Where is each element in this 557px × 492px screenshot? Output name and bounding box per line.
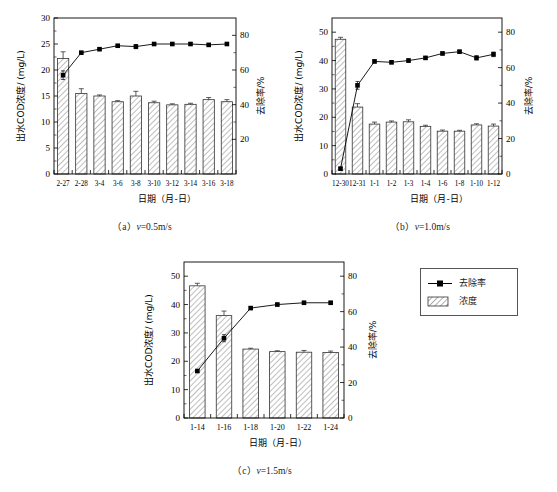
- svg-text:15: 15: [41, 91, 51, 101]
- marker-3-18: [225, 42, 230, 47]
- panel-a-caption-prefix: （a）: [112, 222, 136, 232]
- panel-b-plot: 0102030405002040608012-3012-311-11-21-31…: [286, 6, 554, 221]
- bar-3-4: [94, 96, 105, 174]
- x-tick-label: 2-27: [57, 180, 71, 188]
- marker-3-10: [152, 42, 157, 47]
- bar-1-22: [296, 352, 311, 418]
- marker-3-8: [134, 44, 139, 49]
- marker-1-3: [406, 58, 411, 63]
- svg-text:20: 20: [319, 112, 329, 122]
- svg-text:0: 0: [348, 413, 353, 423]
- y-axis-left: 01020304050: [171, 271, 188, 423]
- marker-1-1: [372, 59, 377, 64]
- svg-text:40: 40: [171, 300, 181, 310]
- marker-1-6: [440, 51, 445, 56]
- line-series: [61, 42, 229, 80]
- x-tick-label: 3-16: [202, 180, 216, 188]
- y-axis-right-title: 去除率/%: [255, 76, 266, 115]
- marker-3-16: [206, 43, 211, 48]
- svg-text:80: 80: [506, 27, 516, 37]
- x-tick-label: 1-16: [217, 423, 232, 432]
- x-tick-label: 12-31: [349, 180, 366, 188]
- y-axis-left-title: 出水COD浓度/ (mg/L): [293, 50, 304, 142]
- x-tick-label: 3-18: [220, 180, 234, 188]
- y-axis-right: 020406080: [340, 271, 358, 423]
- x-tick-label: 3-6: [113, 180, 123, 188]
- x-tick-label: 1-6: [438, 180, 448, 188]
- marker-1-10: [474, 56, 479, 61]
- marker-3-12: [170, 42, 175, 47]
- x-axis: 1-141-161-181-201-221-24: [184, 414, 344, 432]
- svg-text:40: 40: [240, 100, 250, 110]
- legend-label-removal-rate: 去除率: [459, 279, 486, 288]
- chart-panel-c: 010203040500204060801-141-161-181-201-22…: [128, 250, 396, 490]
- y-axis-right-title: 去除率/%: [523, 76, 534, 115]
- x-tick-label: 1-14: [190, 423, 205, 432]
- x-tick-label: 1-4: [421, 180, 431, 188]
- y-axis-left: 01020304050: [319, 27, 336, 179]
- marker-1-16: [222, 336, 227, 341]
- marker-1-2: [389, 60, 394, 65]
- marker-3-4: [97, 47, 102, 52]
- marker-1-24: [328, 300, 333, 305]
- bar-3-16: [203, 100, 214, 174]
- bar-1-24: [323, 352, 338, 418]
- bar-3-8: [130, 96, 141, 174]
- x-tick-label: 1-2: [387, 180, 397, 188]
- svg-text:0: 0: [506, 169, 511, 179]
- svg-text:80: 80: [348, 271, 358, 281]
- y-axis-right-title: 去除率/%: [367, 320, 378, 359]
- line-series: [195, 300, 333, 373]
- svg-text:40: 40: [319, 56, 329, 66]
- bar-series: [190, 283, 339, 418]
- panel-c-plot: 010203040500204060801-141-161-181-201-22…: [128, 250, 396, 465]
- panel-a-caption: （a）v=0.5m/s: [8, 219, 276, 233]
- bar-12-31: [352, 107, 363, 174]
- bar-3-12: [167, 105, 178, 174]
- svg-text:25: 25: [41, 39, 51, 49]
- marker-1-8: [457, 49, 462, 54]
- x-tick-label: 3-4: [95, 180, 105, 188]
- panel-b-caption-value: =1.0m/s: [419, 222, 450, 232]
- marker-1-20: [275, 302, 280, 307]
- x-tick-label: 2-28: [75, 180, 89, 188]
- svg-text:20: 20: [506, 134, 516, 144]
- panel-b-caption-prefix: （b）: [390, 222, 415, 232]
- panel-a-caption-value: =0.5m/s: [141, 222, 172, 232]
- bar-1-3: [403, 122, 414, 174]
- chart-panel-a: 051015202530204060802-272-283-43-63-83-1…: [8, 6, 276, 246]
- svg-text:20: 20: [171, 356, 181, 366]
- x-tick-label: 1-12: [487, 180, 501, 188]
- bar-1-1: [369, 124, 380, 174]
- bar-12-30: [335, 39, 346, 174]
- x-tick-label: 1-8: [455, 180, 465, 188]
- bar-series: [57, 52, 232, 174]
- bar-1-10: [471, 125, 482, 174]
- y-axis-left-title: 出水COD浓度/ (mg/L): [15, 50, 26, 142]
- y-axis-left: 051015202530: [41, 13, 58, 179]
- marker-3-14: [188, 42, 193, 47]
- svg-text:30: 30: [319, 84, 329, 94]
- x-tick-label: 1-3: [404, 180, 414, 188]
- svg-text:60: 60: [348, 307, 358, 317]
- svg-text:40: 40: [506, 98, 516, 108]
- svg-text:10: 10: [41, 117, 51, 127]
- marker-12-30: [338, 166, 343, 171]
- svg-text:10: 10: [319, 141, 329, 151]
- bar-3-18: [221, 102, 232, 174]
- svg-text:20: 20: [348, 378, 358, 388]
- svg-text:20: 20: [240, 134, 250, 144]
- svg-text:5: 5: [46, 143, 51, 153]
- bar-1-8: [454, 131, 465, 174]
- svg-text:0: 0: [46, 169, 51, 179]
- x-tick-label: 1-24: [323, 423, 338, 432]
- svg-text:20: 20: [41, 65, 51, 75]
- x-tick-label: 3-12: [166, 180, 180, 188]
- svg-text:30: 30: [171, 328, 181, 338]
- x-axis-title: 日期（月-日）: [249, 438, 306, 448]
- bar-3-14: [185, 104, 196, 174]
- bar-1-6: [437, 131, 448, 174]
- x-tick-label: 1-20: [270, 423, 285, 432]
- svg-text:10: 10: [171, 385, 181, 395]
- panel-c-caption: （c）v=1.5m/s: [128, 463, 396, 477]
